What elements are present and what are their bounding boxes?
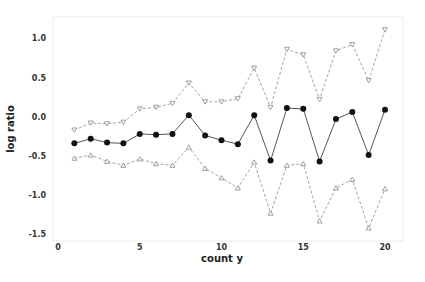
y-tick-label: 0.5 xyxy=(32,74,47,83)
data-point xyxy=(137,131,143,137)
data-point xyxy=(268,158,274,164)
data-point xyxy=(71,140,77,146)
data-point xyxy=(88,136,94,142)
x-axis-label: count y xyxy=(201,253,243,264)
x-tick-label: 15 xyxy=(298,243,310,252)
x-axis-ticks: 05101520 xyxy=(55,243,391,252)
y-tick-label: -1.0 xyxy=(29,191,47,200)
y-tick-label: 1.0 xyxy=(32,34,47,43)
x-tick-label: 10 xyxy=(216,243,228,252)
data-point xyxy=(366,152,372,158)
y-tick-label: -0.5 xyxy=(29,152,47,161)
y-tick-label: 0.0 xyxy=(32,113,47,122)
data-point xyxy=(284,105,290,111)
data-point xyxy=(219,137,225,143)
data-point xyxy=(349,109,355,115)
data-point xyxy=(153,132,159,138)
data-point xyxy=(169,131,175,137)
y-axis-label: log ratio xyxy=(5,105,16,153)
y-tick-label: -1.5 xyxy=(29,230,47,239)
x-tick-label: 5 xyxy=(137,243,143,252)
data-point xyxy=(333,116,339,122)
data-point xyxy=(235,141,241,147)
data-point xyxy=(317,158,323,164)
plot-frame xyxy=(53,17,403,241)
data-point xyxy=(300,106,306,112)
data-point xyxy=(186,112,192,118)
data-point xyxy=(251,112,257,118)
y-axis-ticks: 1.00.50.0-0.5-1.0-1.5 xyxy=(29,34,47,239)
data-point xyxy=(120,140,126,146)
line-chart: 1.00.50.0-0.5-1.0-1.5 05101520 log ratio… xyxy=(0,0,425,282)
x-tick-label: 20 xyxy=(379,243,391,252)
data-point xyxy=(104,140,110,146)
data-point xyxy=(202,133,208,139)
data-point xyxy=(382,107,388,113)
x-tick-label: 0 xyxy=(55,243,61,252)
